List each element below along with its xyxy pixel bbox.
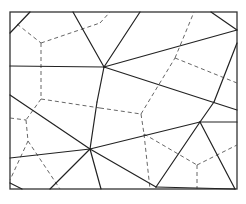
voronoi-edge [100, 12, 110, 23]
bounding-frame [10, 12, 237, 189]
voronoi-edge [26, 99, 41, 120]
delaunay-edge [50, 149, 90, 189]
delaunay-edge [211, 12, 237, 30]
voronoi-edge [17, 24, 41, 43]
delaunay-edge [97, 67, 104, 102]
delaunay-edge [214, 43, 237, 102]
voronoi-edge [10, 118, 26, 120]
delaunay-edge [200, 102, 214, 122]
delaunay-edge [90, 149, 156, 187]
delaunay-edge [10, 149, 90, 158]
delaunay-edges [10, 12, 237, 189]
voronoi-edge [10, 141, 28, 180]
voronoi-edge [141, 58, 175, 114]
delaunay-edge [73, 12, 104, 67]
voronoi-edge [175, 12, 194, 58]
voronoi-edge [141, 114, 144, 134]
voronoi-edge [41, 99, 100, 108]
voronoi-edge [41, 23, 100, 43]
delaunay-edge [90, 102, 97, 149]
voronoi-edge [26, 120, 28, 141]
delaunay-edge [10, 183, 22, 189]
voronoi-edges [10, 12, 237, 189]
voronoi-edge [175, 58, 237, 83]
delaunay-edge [10, 66, 104, 67]
delaunay-voronoi-diagram [0, 0, 246, 204]
delaunay-edge [200, 122, 235, 189]
delaunay-edge [10, 95, 90, 149]
delaunay-edge [104, 67, 237, 110]
voronoi-edge [28, 141, 60, 189]
voronoi-edge [100, 108, 141, 114]
delaunay-edge [10, 12, 30, 33]
